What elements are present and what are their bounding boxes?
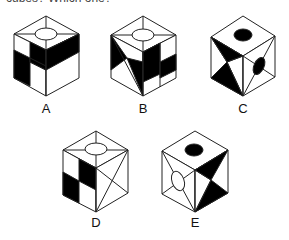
option-label-e: E [191, 215, 200, 230]
cube-d[interactable] [63, 131, 128, 212]
option-label-c: C [238, 101, 247, 116]
cube-e[interactable] [162, 131, 228, 212]
option-label-a: A [42, 101, 51, 116]
cube-c[interactable] [211, 16, 275, 96]
option-label-b: B [139, 101, 148, 116]
option-label-d: D [91, 215, 100, 230]
cube-options-figure [0, 0, 289, 240]
cube-a[interactable] [14, 16, 79, 96]
cube-b[interactable] [111, 16, 176, 96]
